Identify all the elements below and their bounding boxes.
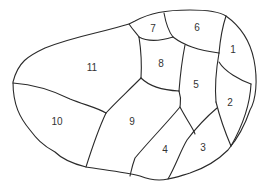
border-9-11 — [106, 78, 141, 113]
region-label-9: 9 — [129, 116, 135, 127]
border-5-8-vertical — [179, 45, 185, 91]
border-8-11 — [139, 37, 141, 78]
border-7-8 — [139, 37, 173, 40]
region-diagram: 1 2 3 4 5 6 7 8 9 10 11 — [0, 0, 258, 188]
region-label-1: 1 — [230, 44, 236, 55]
outer-boundary — [13, 10, 256, 180]
region-label-11: 11 — [87, 62, 98, 73]
region-label-6: 6 — [194, 22, 200, 33]
border-4-5 — [180, 107, 195, 134]
border-9-10 — [86, 113, 106, 167]
border-10-11 — [13, 83, 106, 113]
border-7-11 — [129, 24, 139, 37]
region-label-2: 2 — [227, 97, 233, 108]
border-1-2 — [219, 62, 251, 84]
region-label-7: 7 — [150, 23, 156, 34]
region-map-svg: 1 2 3 4 5 6 7 8 9 10 11 — [0, 0, 258, 188]
region-label-3: 3 — [200, 142, 206, 153]
border-1-6 — [219, 16, 226, 53]
border-2-5 — [216, 53, 219, 102]
border-3-4 — [168, 108, 217, 179]
border-8-9 — [141, 78, 179, 91]
region-label-4: 4 — [162, 144, 168, 155]
border-6-7 — [164, 13, 173, 37]
region-label-10: 10 — [51, 116, 63, 127]
region-label-8: 8 — [158, 58, 164, 69]
region-label-5: 5 — [193, 79, 199, 90]
border-5-8 — [173, 37, 219, 53]
border-4-9 — [130, 91, 181, 176]
border-2-3 — [216, 102, 231, 146]
